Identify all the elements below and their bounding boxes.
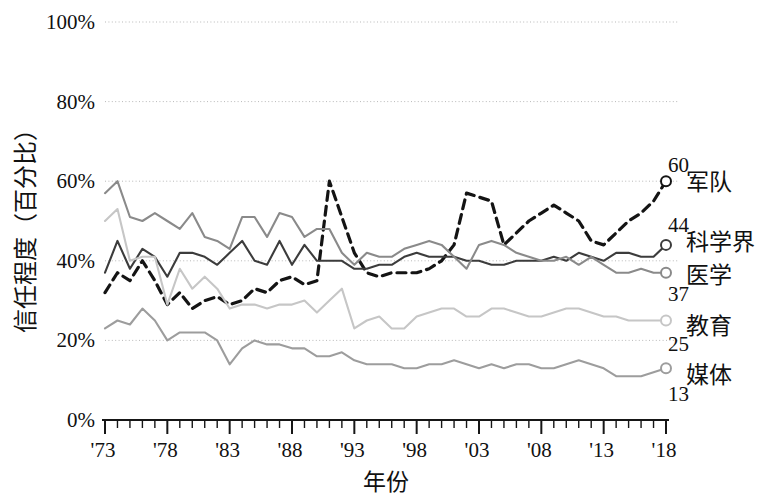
x-tick-label-1978: '78 [153, 438, 178, 462]
x-tick-label-2013: '13 [589, 438, 614, 462]
series-label-军队: 军队 [686, 170, 732, 195]
x-tick-label-2008: '08 [527, 438, 552, 462]
y-tick-label-60: 60% [57, 169, 96, 193]
x-axis-title: 年份 [363, 470, 409, 495]
series-end-marker-媒体 [661, 363, 671, 373]
series-end-marker-医学 [661, 268, 671, 278]
y-axis-title: 信任程度（百分比） [13, 117, 39, 333]
series-end-marker-军队 [661, 176, 671, 186]
series-label-科学界: 科学界 [686, 230, 755, 255]
series-label-媒体: 媒体 [686, 363, 732, 388]
x-tick-label-1973: '73 [91, 438, 116, 462]
series-label-医学: 医学 [686, 263, 732, 288]
y-tick-label-80: 80% [57, 90, 96, 114]
x-tick-label-1988: '88 [278, 438, 303, 462]
chart-canvas: 0%20%40%60%80%100%信任程度（百分比）'73'78'83'88'… [0, 0, 761, 497]
trust-line-chart: 0%20%40%60%80%100%信任程度（百分比）'73'78'83'88'… [0, 0, 761, 497]
y-tick-label-20: 20% [57, 328, 96, 352]
series-line-媒体 [105, 309, 666, 377]
x-tick-label-2003: '03 [465, 438, 490, 462]
y-tick-label-0: 0% [67, 408, 95, 432]
series-line-军队 [105, 181, 666, 308]
y-tick-label-100: 100% [46, 10, 95, 34]
x-tick-label-1993: '93 [340, 438, 365, 462]
x-tick-label-1998: '98 [402, 438, 427, 462]
x-tick-label-2018: '18 [652, 438, 677, 462]
series-line-科学界 [105, 241, 666, 277]
series-end-marker-教育 [661, 316, 671, 326]
series-end-marker-科学界 [661, 240, 671, 250]
y-tick-label-40: 40% [57, 249, 96, 273]
x-tick-label-1983: '83 [215, 438, 240, 462]
series-label-教育: 教育 [686, 314, 732, 339]
